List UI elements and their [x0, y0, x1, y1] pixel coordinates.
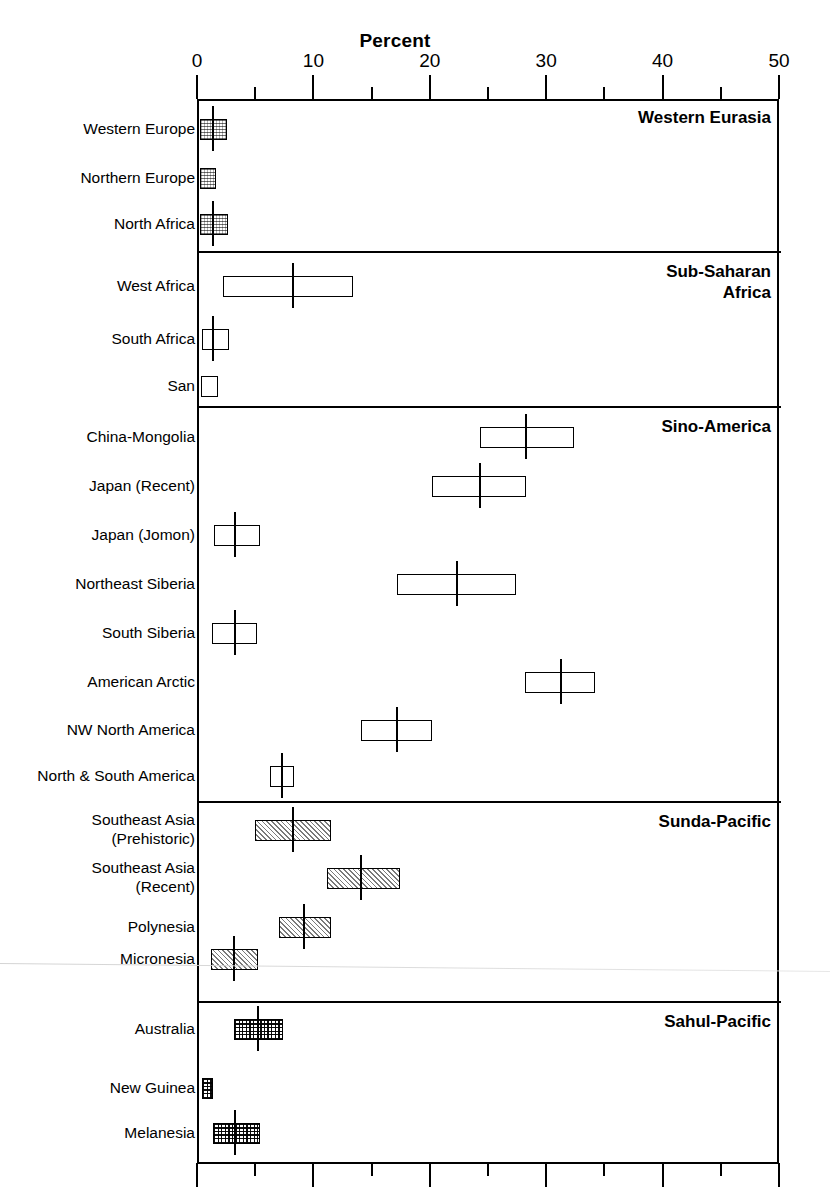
median-tick [233, 936, 235, 981]
axis-tick [720, 1163, 722, 1176]
median-tick [292, 807, 294, 852]
plot-area: Western EurasiaWestern EuropeNorthern Eu… [197, 99, 779, 1163]
axis-tick [778, 1163, 780, 1187]
axis-tick [196, 1163, 198, 1187]
median-tick [525, 414, 527, 459]
axis-tick [603, 87, 605, 99]
median-tick [234, 1110, 236, 1155]
row-label: New Guinea [0, 1079, 195, 1098]
range-box [223, 276, 352, 297]
median-tick [303, 904, 305, 949]
row-label: China-Mongolia [0, 428, 195, 447]
row-label: Polynesia [0, 918, 195, 937]
chart-title: Percent [0, 30, 790, 52]
boxplot-figure: Percent 01020304050 Western EurasiaWeste… [0, 0, 830, 1196]
row-label: Northern Europe [0, 169, 195, 188]
axis-tick [662, 1163, 664, 1187]
panel-title: Sahul-Pacific [664, 1011, 771, 1032]
range-box [200, 214, 228, 235]
median-tick [292, 263, 294, 308]
range-box [200, 168, 216, 189]
median-tick [560, 659, 562, 704]
row-label: Northeast Siberia [0, 575, 195, 594]
x-tick-label: 20 [400, 50, 460, 72]
panel-sunda-pacific: Sunda-PacificSoutheast Asia (Prehistoric… [199, 803, 781, 1003]
panel-sub-saharan-africa: Sub-Saharan AfricaWest AfricaSouth Afric… [199, 253, 781, 408]
median-tick [479, 463, 481, 508]
axis-tick [371, 1163, 373, 1176]
median-tick [257, 1006, 259, 1051]
panel-title: Sub-Saharan Africa [666, 261, 771, 304]
median-tick [456, 561, 458, 606]
axis-tick [312, 1163, 314, 1187]
panel-sahul-pacific: Sahul-PacificAustraliaNew GuineaMelanesi… [199, 1003, 781, 1163]
axis-tick [487, 1163, 489, 1176]
range-box [213, 1123, 260, 1144]
median-tick [360, 855, 362, 900]
range-box [201, 376, 217, 397]
axis-tick [254, 87, 256, 99]
range-box [202, 1078, 212, 1099]
range-box [327, 868, 400, 889]
axis-tick [545, 75, 547, 99]
row-label: South Siberia [0, 624, 195, 643]
row-label: American Arctic [0, 673, 195, 692]
median-tick [212, 316, 214, 361]
axis-tick [545, 1163, 547, 1187]
row-label: North & South America [0, 767, 195, 786]
row-label: NW North America [0, 721, 195, 740]
axis-tick [196, 75, 198, 99]
axis-tick [312, 75, 314, 99]
row-label: Japan (Jomon) [0, 526, 195, 545]
median-tick [212, 201, 214, 246]
row-label: Western Europe [0, 120, 195, 139]
median-tick [234, 512, 236, 557]
panel-western-eurasia: Western EurasiaWestern EuropeNorthern Eu… [199, 99, 781, 253]
median-tick [234, 610, 236, 655]
range-box [214, 525, 259, 546]
axis-tick [429, 75, 431, 99]
panel-sino-america: Sino-AmericaChina-MongoliaJapan (Recent)… [199, 408, 781, 803]
row-label: West Africa [0, 277, 195, 296]
panel-title: Sino-America [661, 416, 771, 437]
range-box [279, 917, 330, 938]
axis-tick [720, 87, 722, 99]
axis-tick [254, 1163, 256, 1176]
row-label: Japan (Recent) [0, 477, 195, 496]
row-label: Australia [0, 1020, 195, 1039]
x-tick-label: 10 [283, 50, 343, 72]
row-label: Micronesia [0, 950, 195, 969]
x-axis-tick-labels: 01020304050 [0, 50, 830, 74]
median-tick [212, 106, 214, 151]
row-label: Melanesia [0, 1124, 195, 1143]
axis-tick [371, 87, 373, 99]
panel-title: Western Eurasia [638, 107, 771, 128]
x-tick-label: 30 [516, 50, 576, 72]
median-tick [281, 753, 283, 798]
axis-tick [429, 1163, 431, 1187]
row-label: North Africa [0, 215, 195, 234]
range-box [202, 329, 229, 350]
axis-tick [662, 75, 664, 99]
row-label: Southeast Asia (Recent) [0, 859, 195, 897]
row-label: Southeast Asia (Prehistoric) [0, 811, 195, 849]
x-tick-label: 50 [749, 50, 809, 72]
row-label: San [0, 377, 195, 396]
row-label: South Africa [0, 330, 195, 349]
axis-tick [778, 75, 780, 99]
axis-tick [487, 87, 489, 99]
x-tick-label: 40 [633, 50, 693, 72]
axis-tick [603, 1163, 605, 1176]
x-tick-label: 0 [167, 50, 227, 72]
panel-title: Sunda-Pacific [659, 811, 771, 832]
median-tick [396, 707, 398, 752]
